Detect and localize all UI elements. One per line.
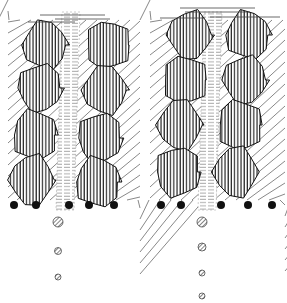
falling-particles <box>53 217 207 299</box>
grain <box>220 100 262 148</box>
hatch-line <box>140 200 149 219</box>
bottom-dot <box>85 201 93 209</box>
grain-columns <box>8 10 273 207</box>
diagram-canvas <box>0 0 287 303</box>
hatch-line <box>150 20 162 22</box>
falling-particle <box>55 248 62 255</box>
grain <box>166 56 207 102</box>
grain <box>8 153 57 205</box>
hatch-line <box>8 11 9 20</box>
falling-particle <box>53 217 63 227</box>
bottom-dot <box>10 201 18 209</box>
falling-particle <box>198 243 206 251</box>
grain <box>81 66 130 116</box>
hatch-line <box>0 0 8 20</box>
bottom-dot <box>177 201 185 209</box>
hatch-line <box>269 194 285 200</box>
grain <box>211 146 259 198</box>
falling-particle <box>55 274 61 280</box>
hatch-line <box>258 183 285 200</box>
hatch-line <box>8 20 20 22</box>
hatch-line <box>140 200 204 274</box>
hatch-line <box>127 197 140 200</box>
grain <box>222 55 270 105</box>
bottom-dot <box>157 201 165 209</box>
bottom-dots <box>10 201 276 209</box>
hatch-line <box>138 200 140 208</box>
hatch-line <box>280 200 285 205</box>
falling-particle <box>199 270 205 276</box>
bottom-dot <box>244 201 252 209</box>
hatch-line <box>285 200 287 238</box>
falling-particle <box>197 217 207 227</box>
bottom-dot <box>32 201 40 209</box>
hatch-line <box>8 20 31 33</box>
grain <box>79 113 124 164</box>
hatch-line <box>150 11 151 20</box>
hatch-line <box>285 200 287 216</box>
grain <box>15 109 59 159</box>
falling-particle <box>199 293 205 299</box>
hatch-line <box>140 0 150 20</box>
bottom-dot <box>217 201 225 209</box>
hatch-line <box>140 200 193 263</box>
grain <box>89 22 130 68</box>
bottom-dot <box>268 201 276 209</box>
bottom-dot <box>110 201 118 209</box>
bottom-dot <box>65 201 73 209</box>
grain <box>158 148 202 198</box>
hatch-line <box>140 200 160 230</box>
hatch-line <box>285 200 287 260</box>
